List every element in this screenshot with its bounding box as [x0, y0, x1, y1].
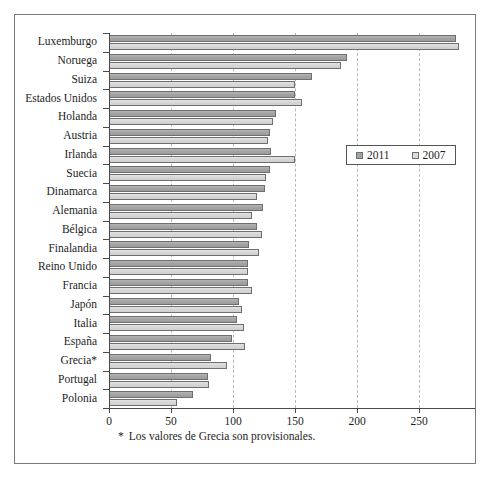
y-tick [103, 277, 109, 278]
y-axis-label-holanda: Holanda [58, 111, 97, 123]
bar-2007-finalandia [109, 249, 259, 256]
bar-row [109, 52, 419, 71]
bar-2011-grecia [109, 354, 211, 361]
bar-2011-suiza [109, 73, 312, 80]
y-tick [103, 108, 109, 109]
bar-row [109, 258, 419, 277]
bar-2007-irlanda [109, 156, 295, 163]
y-axis-label-estadosunidos: Estados Unidos [25, 93, 97, 105]
x-axis-line [109, 408, 475, 409]
y-tick [103, 202, 109, 203]
bar-row [109, 277, 419, 296]
x-tick-250 [419, 408, 420, 413]
bar-2007-reinounido [109, 268, 248, 275]
y-axis-label-suiza: Suiza [71, 74, 97, 86]
legend-entry-2011: 2011 [356, 149, 390, 161]
bar-2007-japn [109, 306, 242, 313]
bar-row [109, 108, 419, 127]
bar-2011-austria [109, 129, 270, 136]
bar-2011-noruega [109, 54, 347, 61]
bar-row [109, 202, 419, 221]
bar-2007-blgica [109, 231, 262, 238]
y-axis-label-luxemburgo: Luxemburgo [38, 36, 97, 48]
bar-2011-francia [109, 279, 248, 286]
chart-frame: LuxemburgoNoruegaSuizaEstados UnidosHola… [14, 14, 476, 464]
x-axis-label-200: 200 [348, 415, 365, 427]
y-tick [103, 33, 109, 34]
legend-swatch-2011-icon [356, 152, 363, 159]
y-axis-label-suecia: Suecia [66, 168, 97, 180]
y-axis-label-portugal: Portugal [58, 374, 97, 386]
y-axis-label-francia: Francia [63, 280, 97, 292]
bar-2011-holanda [109, 110, 276, 117]
y-axis-label-italia: Italia [73, 318, 97, 330]
y-axis-label-grecia: Grecia* [61, 355, 97, 367]
y-axis-label-polonia: Polonia [62, 393, 97, 405]
y-tick [103, 352, 109, 353]
bar-2007-francia [109, 287, 252, 294]
y-axis-line [109, 33, 110, 408]
legend-label-2007: 2007 [423, 149, 446, 161]
y-axis-label-reinounido: Reino Unido [38, 261, 97, 273]
y-tick [103, 239, 109, 240]
bar-row [109, 239, 419, 258]
bar-row [109, 183, 419, 202]
bar-series-container [109, 33, 419, 408]
footnote-text: Los valores de Grecia son provisionales. [129, 430, 316, 442]
legend-swatch-2007-icon [412, 152, 419, 159]
bar-row [109, 71, 419, 90]
x-tick-100 [233, 408, 234, 413]
bar-row [109, 221, 419, 240]
x-axis-label-100: 100 [224, 415, 241, 427]
bar-2011-italia [109, 316, 237, 323]
bar-row [109, 127, 419, 146]
y-tick [103, 52, 109, 53]
y-axis-label-dinamarca: Dinamarca [47, 186, 97, 198]
y-tick [103, 314, 109, 315]
bar-2011-dinamarca [109, 185, 265, 192]
y-axis-label-finalandia: Finalandia [48, 243, 97, 255]
y-axis-label-noruega: Noruega [57, 55, 97, 67]
bar-row [109, 333, 419, 352]
bar-row [109, 389, 419, 408]
y-tick [103, 258, 109, 259]
bar-2007-italia [109, 324, 244, 331]
legend-entry-2007: 2007 [412, 149, 446, 161]
x-tick-150 [295, 408, 296, 413]
bar-row [109, 89, 419, 108]
bar-2011-irlanda [109, 148, 271, 155]
y-axis-label-irlanda: Irlanda [64, 149, 97, 161]
footnote: *Los valores de Grecia son provisionales… [118, 430, 315, 442]
y-tick [103, 221, 109, 222]
bar-2011-blgica [109, 223, 257, 230]
bar-2007-noruega [109, 62, 341, 69]
y-tick [103, 371, 109, 372]
y-tick [103, 127, 109, 128]
x-axis-label-50: 50 [165, 415, 177, 427]
bar-row [109, 164, 419, 183]
y-tick [103, 164, 109, 165]
bar-2007-suecia [109, 174, 266, 181]
x-axis-label-150: 150 [286, 415, 303, 427]
bar-2011-suecia [109, 166, 270, 173]
bar-2007-polonia [109, 399, 177, 406]
y-tick [103, 89, 109, 90]
bar-2007-espaa [109, 343, 245, 350]
y-tick [103, 183, 109, 184]
y-axis-label-espaa: España [64, 336, 97, 348]
bar-2011-estadosunidos [109, 91, 295, 98]
gridline-250 [419, 33, 420, 408]
bar-2007-holanda [109, 118, 273, 125]
bar-row [109, 33, 419, 52]
x-tick-200 [357, 408, 358, 413]
bar-2007-luxemburgo [109, 43, 459, 50]
bar-2007-suiza [109, 81, 295, 88]
bar-2007-dinamarca [109, 193, 257, 200]
y-axis-label-japn: Japón [70, 299, 97, 311]
y-tick [103, 296, 109, 297]
y-tick [103, 71, 109, 72]
y-axis-label-blgica: Bélgica [62, 224, 97, 236]
y-axis-label-alemania: Alemania [52, 205, 97, 217]
chart-legend: 2011 2007 [346, 145, 456, 165]
bar-row [109, 296, 419, 315]
